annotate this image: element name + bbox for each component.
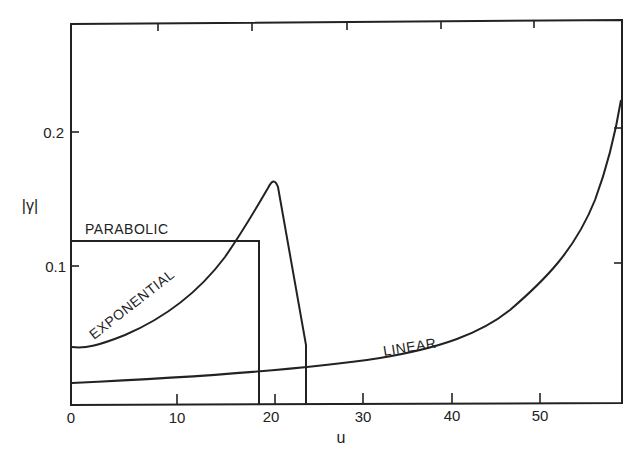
y-axis-label: |γ| — [22, 197, 38, 214]
x-tick-label: 50 — [532, 407, 549, 424]
x-axis-label: u — [337, 429, 346, 446]
y-ticks-left — [71, 132, 79, 266]
x-tick-labels: 0 10 20 30 40 50 — [67, 407, 549, 426]
y-tick-labels: 0.2 0.1 — [43, 124, 66, 275]
plot-frame — [71, 20, 622, 405]
linear-label: LINEAR — [382, 335, 437, 359]
x-tick-label: 10 — [169, 409, 186, 426]
chart-canvas: 0 10 20 30 40 50 u 0.2 0.1 |γ| PARABOLIC… — [0, 0, 634, 454]
exponential-label: EXPONENTIAL — [86, 266, 177, 342]
y-tick-label: 0.1 — [45, 258, 66, 275]
parabolic-label: PARABOLIC — [85, 221, 169, 237]
x-tick-label: 20 — [263, 408, 280, 425]
x-tick-label: 0 — [67, 409, 75, 426]
x-tick-label: 40 — [444, 407, 461, 424]
x-tick-label: 30 — [355, 408, 372, 425]
y-ticks-right — [614, 128, 622, 263]
y-tick-label: 0.2 — [43, 124, 64, 141]
